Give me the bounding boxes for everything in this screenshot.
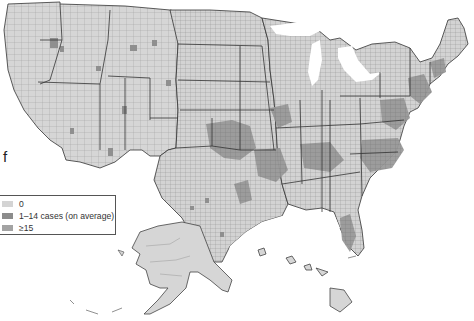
legend-item-low: 1–14 cases (on average) — [0, 210, 115, 222]
swatch-high — [2, 225, 13, 231]
panel-label: f — [3, 148, 7, 165]
swatch-low — [2, 213, 13, 219]
legend-item-zero: 0 — [0, 198, 115, 210]
west-region — [4, 2, 180, 168]
florida-keys — [348, 256, 356, 258]
us-county-map — [0, 0, 474, 321]
hawaii-inset — [258, 248, 352, 312]
swatch-zero — [2, 201, 13, 207]
legend-label-low: 1–14 cases (on average) — [19, 211, 114, 221]
legend-label-zero: 0 — [19, 199, 24, 209]
legend-label-high: ≥15 — [19, 223, 33, 233]
legend-item-high: ≥15 — [0, 222, 115, 234]
legend: 0 1–14 cases (on average) ≥15 — [0, 195, 116, 235]
